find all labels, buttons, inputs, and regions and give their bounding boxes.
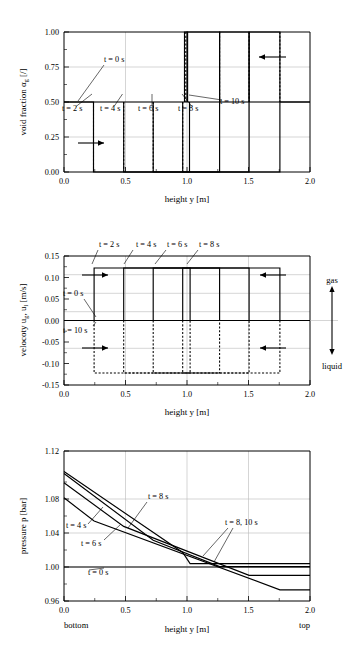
panel1-label-t2: t = 2 s — [62, 104, 82, 113]
panel2-ytick-4: 0.05 — [45, 295, 59, 304]
panel2-arrow-right-top — [82, 272, 108, 277]
panel2-xtick-4: 2.0 — [305, 390, 315, 399]
panel-pressure: 0.96 1.00 1.04 1.08 1.12 0.0 0.5 1.0 1.5… — [18, 447, 315, 634]
panel3-ytick-2: 1.04 — [45, 529, 59, 538]
panel3-xend-bottom: bottom — [64, 620, 89, 630]
svg-text:velocoty ug, ul [m/s]: velocoty ug, ul [m/s] — [18, 284, 29, 357]
figure-container: 0.00 0.25 0.50 0.75 1.00 0.0 0.5 1.0 1.5… — [0, 0, 363, 652]
panel3-ytick-0: 0.96 — [45, 597, 59, 606]
panel1-ytick-labels: 0.00 0.25 0.50 0.75 1.00 — [45, 28, 59, 177]
panel1-label-t6: t = 6 s — [138, 104, 158, 113]
panel2-label-t2: t = 2 s — [99, 240, 119, 249]
panel2-ytick-2: -0.05 — [42, 338, 59, 347]
panel2-yaxis-label: velocoty ug, ul [m/s] — [18, 284, 29, 357]
gas-arrow-icon — [329, 286, 334, 292]
panel1-ytick-2: 0.50 — [45, 98, 59, 107]
panel2-yaxis-unit: [m/s] — [18, 284, 28, 305]
liquid-arrow-icon — [329, 349, 334, 355]
panel1-ytick-0: 0.00 — [45, 168, 59, 177]
panel3-ytick-3: 1.08 — [45, 495, 59, 504]
panel3-xtick-3: 1.5 — [243, 606, 253, 615]
panel2-xtick-0: 0.0 — [59, 390, 69, 399]
panel2-xtick-2: 1.0 — [182, 390, 192, 399]
panel1-xtick-2: 1.0 — [182, 177, 192, 186]
panel3-label-t8: t = 8 s — [148, 492, 168, 501]
panel2-label-t6: t = 6 s — [167, 240, 187, 249]
phase-label-gas: gas — [326, 275, 338, 285]
panel3-ytick-1: 1.00 — [45, 563, 59, 572]
panel1-xtick-3: 1.5 — [243, 177, 253, 186]
phase-label-liquid: liquid — [322, 361, 343, 371]
panel2-arrow-left-bottom — [260, 345, 286, 350]
panel3-xtick-2: 1.0 — [182, 606, 192, 615]
panel2-leader-lines — [84, 250, 198, 326]
panel3-xtick-labels: 0.0 0.5 1.0 1.5 2.0 — [59, 606, 315, 615]
panel1-leader-lines — [76, 65, 222, 107]
panel2-arrow-right-bottom — [82, 345, 108, 350]
panel1-ytick-3: 0.75 — [45, 63, 59, 72]
panel3-label-t4: t = 4 s — [66, 521, 86, 530]
panel3-ytick-labels: 0.96 1.00 1.04 1.08 1.12 — [45, 447, 59, 606]
panel3-xaxis-label: height y [m] — [165, 624, 210, 634]
svg-text:pressure p [bar]: pressure p [bar] — [18, 498, 28, 554]
panel2-label-t8: t = 8 s — [199, 240, 219, 249]
panel1-ytick-4: 1.00 — [45, 28, 59, 37]
panel2-ytick-6: 0.15 — [45, 252, 59, 261]
panel1-xtick-1: 0.5 — [120, 177, 130, 186]
panel1-label-t0: t = 0 s — [104, 55, 124, 64]
panel3-label-t6: t = 6 s — [81, 539, 101, 548]
three-panel-figure: 0.00 0.25 0.50 0.75 1.00 0.0 0.5 1.0 1.5… — [0, 0, 363, 652]
panel1-xtick-0: 0.0 — [59, 177, 69, 186]
panel1-ytick-1: 0.25 — [45, 133, 59, 142]
panel2-xtick-3: 1.5 — [243, 390, 253, 399]
panel3-label-t8-10: t = 8, 10 s — [225, 518, 258, 527]
panel1-xaxis-label: height y [m] — [165, 194, 210, 204]
panel3-ytick-4: 1.12 — [45, 447, 59, 456]
panel2-label-t0: t = 0 s — [63, 289, 83, 298]
panel1-xtick-4: 2.0 — [305, 177, 315, 186]
panel3-leader-lines — [88, 502, 233, 570]
panel3-xtick-1: 0.5 — [120, 606, 130, 615]
panel3-gridlines — [64, 451, 310, 601]
panel-velocity: -0.15 -0.10 -0.05 0.00 0.05 0.10 0.15 0.… — [18, 240, 343, 417]
panel2-ytick-5: 0.10 — [45, 274, 59, 283]
panel3-xtick-0: 0.0 — [59, 606, 69, 615]
panel2-label-t10: t = 10 s — [63, 326, 87, 335]
panel1-label-t8: t = 8 s — [178, 104, 198, 113]
panel1-label-t4: t = 4 s — [100, 104, 120, 113]
panel2-label-t4: t = 4 s — [136, 240, 156, 249]
panel1-yaxis-unit: [/] — [18, 68, 28, 79]
panel3-label-t0: t = 0 s — [88, 568, 108, 577]
panel1-yaxis-main: void fraction α — [18, 82, 28, 135]
panel-void-fraction: 0.00 0.25 0.50 0.75 1.00 0.0 0.5 1.0 1.5… — [18, 28, 315, 204]
svg-text:void fraction αg [/]: void fraction αg [/] — [18, 68, 29, 135]
panel1-yaxis-label: void fraction αg [/] — [18, 68, 29, 135]
panel2-xtick-1: 0.5 — [120, 390, 130, 399]
panel2-ytick-3: 0.00 — [45, 317, 59, 326]
panel1-arrow-right — [78, 140, 104, 145]
panel1-arrow-left — [259, 54, 286, 59]
panel1-time-labels: t = 0 s t = 2 s t = 4 s t = 6 s t = 8 s … — [62, 55, 244, 113]
panel2-yaxis-main: velocoty u — [18, 318, 28, 356]
panel3-xtick-4: 2.0 — [305, 606, 315, 615]
panel2-ytick-0: -0.15 — [42, 381, 59, 390]
panel2-phase-legend: gas liquid — [310, 275, 343, 371]
panel2-ytick-labels: -0.15 -0.10 -0.05 0.00 0.05 0.10 0.15 — [42, 252, 59, 390]
panel1-xtick-labels: 0.0 0.5 1.0 1.5 2.0 — [59, 177, 315, 186]
panel2-arrow-left-top — [260, 272, 286, 277]
panel2-xaxis-label: height y [m] — [165, 407, 210, 417]
panel3-xend-top: top — [299, 620, 310, 630]
panel1-label-t10: t = 10 s — [220, 97, 244, 106]
panel2-ytick-1: -0.10 — [42, 360, 59, 369]
panel3-yaxis-label: pressure p [bar] — [18, 498, 28, 554]
panel2-xtick-labels: 0.0 0.5 1.0 1.5 2.0 — [59, 390, 315, 399]
